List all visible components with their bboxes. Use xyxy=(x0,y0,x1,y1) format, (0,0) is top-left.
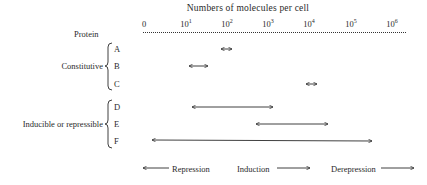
legend-repression: Repression xyxy=(172,164,210,174)
brace-inducible xyxy=(105,100,112,148)
legend-derepression: Derepression xyxy=(331,164,376,174)
brace-constitutive xyxy=(105,43,112,90)
legend-induction: Induction xyxy=(237,164,270,174)
diagram-graphics xyxy=(0,0,427,185)
range-arrow-f xyxy=(152,140,372,141)
